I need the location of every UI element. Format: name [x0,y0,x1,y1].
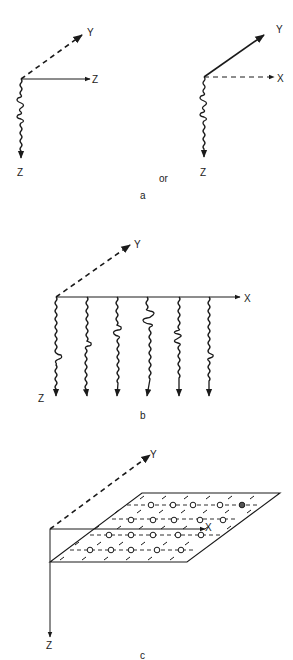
caption-a: a [140,190,146,201]
trace-3 [114,297,122,396]
acquisition-plane [50,493,280,562]
panel-a-left: Y Z Z [17,27,98,178]
y-axis-dashed [21,35,82,79]
y-label: Y [134,239,141,250]
trace-6 [208,297,213,396]
panel-c: Y X Z [46,449,280,651]
caption-c: c [140,650,145,660]
y-label: Y [87,27,94,38]
y-label: Y [276,24,283,35]
z-label: Z [38,393,44,404]
wavy-trace [17,79,24,158]
z-label-down: Z [17,167,23,178]
y-label: Y [150,449,157,460]
x-label: X [244,293,251,304]
x-label: X [205,522,212,533]
or-connector: or [159,173,169,184]
y-axis-dashed [56,245,130,297]
trace-4 [143,297,154,396]
x-label: X [277,73,284,84]
receiver-points [87,502,245,553]
z-label: Z [46,640,52,651]
panel-b: Y X Z [38,239,251,404]
trace-1 [55,297,62,396]
seismic-geometry-figure: Y Z Z Y X Z or a Y X Z b [0,0,293,660]
y-axis-dashed [50,455,150,529]
y-axis-solid [204,35,264,77]
z-label-right: Z [92,74,98,85]
trace-5 [174,297,181,396]
wavy-trace [200,77,207,157]
caption-b: b [140,410,146,421]
trace-2 [85,297,91,396]
panel-a-right: Y X Z [200,24,284,178]
z-label-down: Z [200,167,206,178]
